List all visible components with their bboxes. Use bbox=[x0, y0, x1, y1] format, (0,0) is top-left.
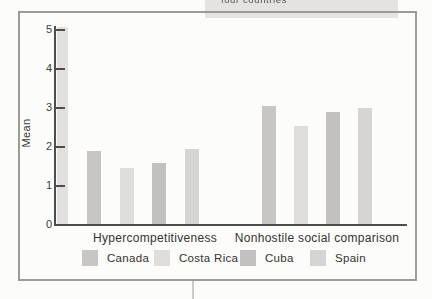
legend-label: Cuba bbox=[265, 252, 294, 264]
truncated-caption-text: four countries bbox=[221, 0, 287, 5]
plot-area bbox=[55, 30, 407, 225]
y-axis-title: Mean bbox=[20, 83, 34, 183]
y-axis-tick-label: 0 bbox=[26, 218, 52, 232]
bar-canada bbox=[262, 106, 276, 225]
legend-label: Canada bbox=[107, 252, 149, 264]
bar-costa-rica bbox=[294, 126, 308, 225]
bar-group-hypercompetitiveness bbox=[87, 30, 199, 225]
bar-canada bbox=[87, 151, 101, 225]
legend-label: Costa Rica bbox=[179, 252, 238, 264]
legend-item-cuba: Cuba bbox=[240, 250, 294, 266]
category-label-hypercompetitiveness: Hypercompetitiveness bbox=[93, 231, 217, 245]
bar-spain bbox=[358, 108, 372, 225]
y-axis-tick-label: 3 bbox=[26, 101, 52, 115]
bar-spain bbox=[185, 149, 199, 225]
legend-item-spain: Spain bbox=[310, 250, 366, 266]
category-label-nonhostile-social-comparison: Nonhostile social comparison bbox=[235, 231, 399, 245]
legend: CanadaCosta RicaCubaSpain bbox=[18, 250, 417, 268]
y-axis-tick-label: 5 bbox=[26, 23, 52, 37]
legend-swatch bbox=[310, 250, 326, 266]
y-axis-tick-label: 4 bbox=[26, 62, 52, 76]
figure-bar-chart: Mean 012345 Hypercompetitiveness Nonhost… bbox=[18, 11, 417, 281]
legend-swatch bbox=[154, 250, 170, 266]
bar-cuba bbox=[326, 112, 340, 225]
bar-cuba bbox=[152, 163, 166, 225]
column-divider-line bbox=[192, 281, 194, 299]
x-axis-line bbox=[55, 224, 407, 226]
legend-item-costa-rica: Costa Rica bbox=[154, 250, 238, 266]
legend-item-canada: Canada bbox=[82, 250, 149, 266]
textbook-page: four countries Mean 012345 Hypercompetit… bbox=[0, 0, 432, 299]
legend-label: Spain bbox=[335, 252, 366, 264]
y-axis-tick-label: 2 bbox=[26, 140, 52, 154]
y-axis-tick-label: 1 bbox=[26, 179, 52, 193]
legend-swatch bbox=[82, 250, 98, 266]
legend-swatch bbox=[240, 250, 256, 266]
bar-costa-rica bbox=[120, 168, 134, 225]
bar-group-nonhostile-social-comparison bbox=[262, 30, 372, 225]
